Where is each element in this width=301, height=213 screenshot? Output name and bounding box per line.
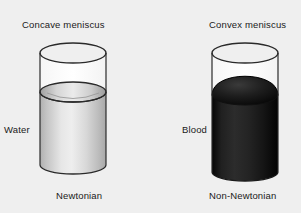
concave-meniscus-title: Concave meniscus — [22, 19, 105, 30]
water-cylinder-group — [40, 43, 106, 174]
meniscus-comparison-figure: Concave meniscus Convex meniscus Water B… — [0, 0, 301, 213]
blood-fluid-body — [212, 95, 278, 181]
water-fluid-body — [40, 92, 106, 174]
non-newtonian-caption: Non-Newtonian — [209, 190, 276, 201]
blood-cylinder-rim — [212, 43, 278, 63]
illustration-canvas — [0, 0, 301, 213]
convex-meniscus-title: Convex meniscus — [209, 19, 286, 30]
water-cylinder-rim — [40, 43, 106, 63]
water-substance-label: Water — [4, 124, 30, 135]
cylinders-illustration — [0, 0, 301, 213]
blood-cylinder-group — [212, 43, 278, 181]
blood-substance-label: Blood — [182, 124, 207, 135]
newtonian-caption: Newtonian — [56, 190, 102, 201]
